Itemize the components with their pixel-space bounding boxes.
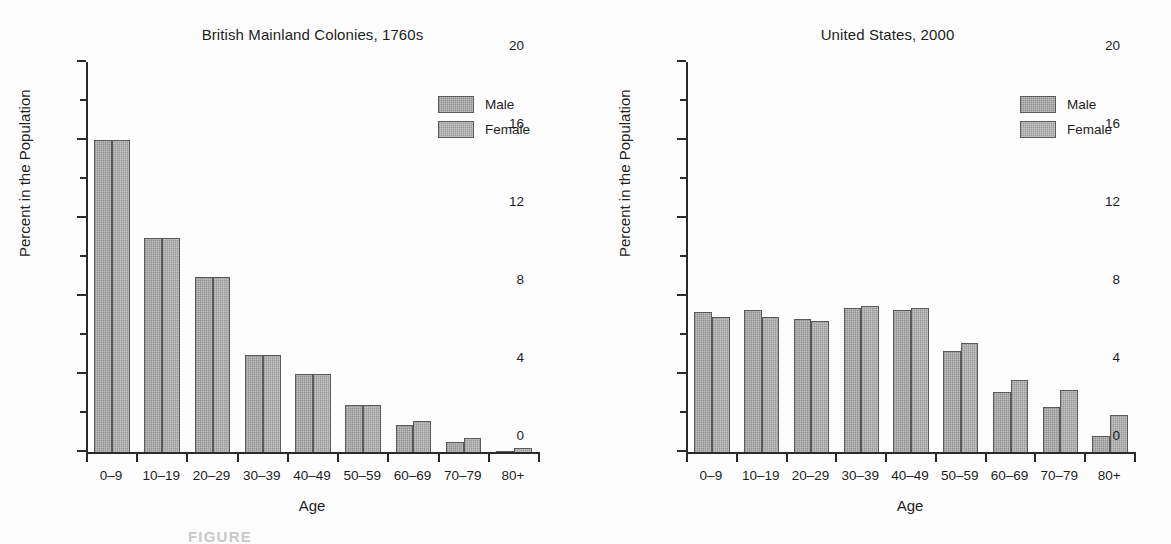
legend-swatch-female-icon [438, 121, 474, 138]
bar-female[interactable] [1060, 390, 1078, 452]
bar-group [239, 62, 289, 452]
bar-female[interactable] [213, 277, 231, 453]
x-axis-tick [1134, 452, 1136, 462]
y-axis-tick-label: 12 [490, 194, 524, 209]
bar-group [339, 62, 389, 452]
x-axis-tick [786, 452, 788, 462]
bar-group [289, 62, 339, 452]
y-axis-tick-label: 4 [490, 350, 524, 365]
legend-label-male: Male [485, 97, 514, 112]
legend-label-female: Female [1067, 122, 1112, 137]
bar-female[interactable] [313, 374, 331, 452]
legend-swatch-male-icon [1020, 96, 1056, 113]
x-axis-category-label: 40–49 [293, 468, 331, 483]
bar-female[interactable] [811, 321, 829, 452]
legend-swatch-female-icon [1020, 121, 1056, 138]
x-axis-category-label: 80+ [1098, 468, 1121, 483]
bar-male[interactable] [744, 310, 762, 452]
legend-label-female: Female [485, 122, 530, 137]
legend-swatch-male-icon [438, 96, 474, 113]
y-axis-tick-label: 0 [1086, 428, 1120, 443]
y-axis-tick [677, 294, 686, 296]
x-axis-tick [1084, 452, 1086, 462]
bar-male[interactable] [245, 355, 263, 453]
x-axis-tick [686, 452, 688, 462]
x-axis-tick [387, 452, 389, 462]
y-axis-tick-label: 12 [1086, 194, 1120, 209]
x-axis-category-label: 30–39 [243, 468, 281, 483]
x-axis-category-label: 80+ [501, 468, 524, 483]
bar-female[interactable] [961, 343, 979, 452]
bar-male[interactable] [844, 308, 862, 452]
legend-label-male: Male [1067, 97, 1096, 112]
y-axis-tick [77, 450, 86, 452]
y-axis-minor-tick [680, 177, 686, 179]
chart-panel-right: United States, 2000 Percent in the Popul… [586, 0, 1171, 544]
y-axis-tick-label: 0 [490, 428, 524, 443]
x-axis-category-label: 10–19 [143, 468, 181, 483]
y-axis-title-left: Percent in the Population [16, 89, 33, 257]
x-axis-tick [1034, 452, 1036, 462]
bar-female[interactable] [861, 306, 879, 452]
y-axis-tick [677, 60, 686, 62]
bar-female[interactable] [464, 438, 482, 452]
bar-female[interactable] [363, 405, 381, 452]
y-axis-minor-tick [80, 177, 86, 179]
bar-male[interactable] [794, 319, 812, 452]
bar-male[interactable] [893, 310, 911, 452]
legend-row-male: Male [438, 92, 530, 117]
bar-male[interactable] [943, 351, 961, 452]
x-axis-tick [538, 452, 540, 462]
y-axis-minor-tick [80, 333, 86, 335]
y-axis-tick [77, 372, 86, 374]
bar-female[interactable] [712, 317, 730, 452]
bar-group [837, 62, 887, 452]
x-axis-tick [86, 452, 88, 462]
bar-male[interactable] [694, 312, 712, 452]
y-axis-tick-label: 8 [490, 272, 524, 287]
bar-male[interactable] [993, 392, 1011, 452]
y-axis-tick [77, 294, 86, 296]
bar-male[interactable] [345, 405, 363, 452]
x-axis-category-label: 30–39 [841, 468, 879, 483]
bar-group [389, 62, 439, 452]
y-axis-minor-tick [80, 411, 86, 413]
y-axis-tick [677, 138, 686, 140]
bar-female[interactable] [762, 317, 780, 452]
legend-left: Male Female [438, 92, 530, 142]
x-axis-category-label: 0–9 [700, 468, 723, 483]
x-axis-category-label: 60–69 [394, 468, 432, 483]
bar-male[interactable] [144, 238, 162, 453]
bar-group [937, 62, 987, 452]
bar-female[interactable] [112, 140, 130, 452]
x-axis-title-right: Age [686, 497, 1134, 514]
x-axis-tick [736, 452, 738, 462]
bar-female[interactable] [263, 355, 281, 453]
bar-female[interactable] [911, 308, 929, 452]
y-axis-minor-tick [680, 255, 686, 257]
bar-male[interactable] [1043, 407, 1061, 452]
legend-row-male: Male [1020, 92, 1112, 117]
bar-male[interactable] [195, 277, 213, 453]
bar-female[interactable] [413, 421, 431, 452]
x-axis-category-label: 20–29 [792, 468, 830, 483]
bar-female[interactable] [162, 238, 180, 453]
x-axis-tick [885, 452, 887, 462]
bar-male[interactable] [295, 374, 313, 452]
x-axis-tick [438, 452, 440, 462]
legend-row-female: Female [1020, 117, 1112, 142]
bar-male[interactable] [396, 425, 414, 452]
bar-male[interactable] [496, 451, 514, 452]
x-axis-category-label: 70–79 [1041, 468, 1079, 483]
x-axis-tick [935, 452, 937, 462]
x-axis-category-label: 50–59 [941, 468, 979, 483]
x-axis-category-label: 0–9 [100, 468, 123, 483]
bar-female[interactable] [1011, 380, 1029, 452]
x-axis-tick [337, 452, 339, 462]
y-axis-minor-tick [80, 99, 86, 101]
y-axis-tick [677, 216, 686, 218]
bar-female[interactable] [514, 448, 532, 452]
bar-male[interactable] [446, 442, 464, 452]
bar-male[interactable] [94, 140, 112, 452]
y-axis-minor-tick [680, 99, 686, 101]
